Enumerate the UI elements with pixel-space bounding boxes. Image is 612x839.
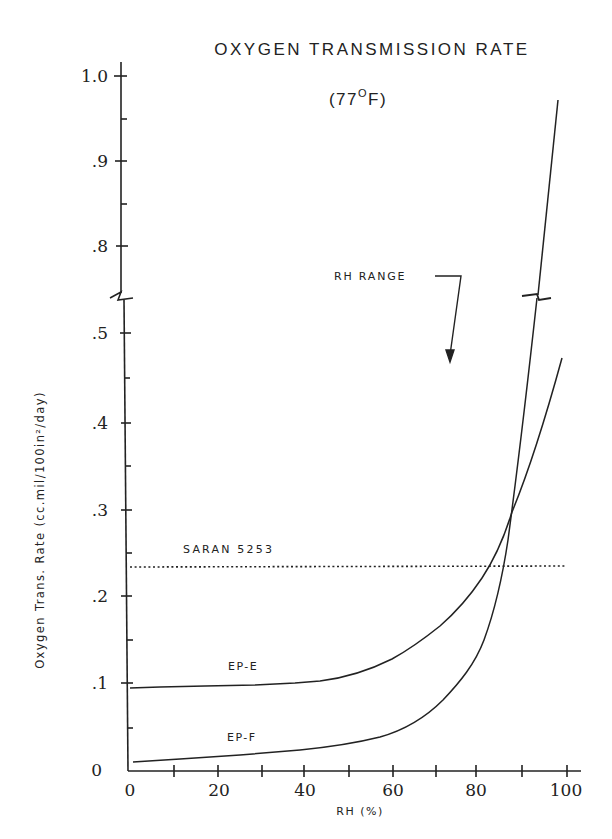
chart-title: OXYGEN TRANSMISSION RATE bbox=[214, 40, 529, 59]
x-axis bbox=[128, 765, 581, 777]
svg-text:80: 80 bbox=[465, 780, 487, 800]
svg-text:.9: .9 bbox=[92, 151, 108, 171]
svg-text:1.0: 1.0 bbox=[81, 66, 108, 86]
ep-e-label: EP-E bbox=[228, 660, 258, 673]
svg-text:.2: .2 bbox=[92, 586, 108, 606]
rh-range-label: RH RANGE bbox=[334, 270, 406, 283]
saran-5253-line bbox=[130, 566, 566, 567]
saran-label: SARAN 5253 bbox=[183, 543, 274, 556]
y-tick-labels: 1.0 .9 .8 .5 .4 .3 .2 .1 0 bbox=[81, 66, 108, 780]
ep-e-curve bbox=[130, 358, 562, 688]
ep-f-curve-upper bbox=[538, 100, 558, 295]
svg-text:.4: .4 bbox=[92, 413, 108, 433]
svg-text:20: 20 bbox=[208, 780, 230, 800]
svg-text:0: 0 bbox=[91, 760, 102, 780]
svg-text:.5: .5 bbox=[92, 323, 108, 343]
svg-text:.1: .1 bbox=[92, 673, 108, 693]
x-tick-labels: 0 20 40 60 80 100 bbox=[125, 780, 583, 800]
rh-range-arrow bbox=[435, 276, 461, 362]
svg-text:.3: .3 bbox=[92, 500, 108, 520]
svg-text:.8: .8 bbox=[92, 236, 108, 256]
svg-text:40: 40 bbox=[294, 780, 316, 800]
y-axis-label: Oxygen Trans. Rate (cc.mil/100in²/day) bbox=[33, 391, 47, 669]
svg-text:0: 0 bbox=[125, 780, 136, 800]
ep-f-curve bbox=[133, 298, 537, 762]
svg-text:60: 60 bbox=[382, 780, 404, 800]
ep-f-label: EP-F bbox=[227, 731, 257, 744]
svg-text:100: 100 bbox=[550, 780, 582, 800]
x-axis-label: RH (%) bbox=[336, 805, 383, 818]
chart-subtitle: (77OF) bbox=[329, 87, 387, 109]
y-axis bbox=[110, 62, 133, 771]
oxygen-transmission-chart: OXYGEN TRANSMISSION RATE (77OF) 1.0 .9 .… bbox=[0, 0, 612, 839]
